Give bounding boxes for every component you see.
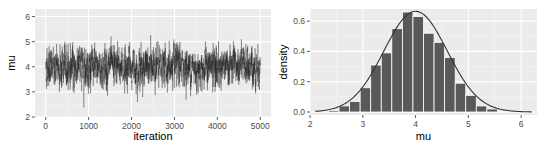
histogram-y-axis-title: density [277,44,289,79]
trace-y-tick-label: 6 [25,12,30,22]
trace-y-tick-label: 2 [25,112,30,122]
histogram-bar [360,88,371,112]
trace-x-tick-label: 0 [43,121,48,131]
trace-x-tick-label: 4000 [208,121,227,131]
histogram-bar [445,57,456,112]
histogram-bar [402,12,413,112]
histogram-bar [455,83,466,112]
histogram-x-tick-label: 3 [360,119,365,129]
histogram-bar [476,106,487,112]
trace-plot-y-axis-title: mu [5,55,17,70]
histogram-bar [434,42,445,112]
histogram-bar [487,109,498,112]
histogram-bar [328,110,339,112]
histogram-bar [424,33,435,112]
histogram-bar [466,95,477,112]
trace-plot: 23456010002000300040005000 iteration mu [5,9,271,142]
histogram-y-tick-label: 0.4 [293,46,305,56]
histogram-bar [381,53,392,112]
figure: 23456010002000300040005000 iteration mu … [0,0,551,147]
histogram-y-tick-label: 0.6 [293,16,305,26]
histogram-x-axis-title: mu [416,130,431,142]
histogram-y-tick-label: 0.2 [293,77,305,87]
histogram-bar [350,101,361,112]
histogram-bar [339,106,350,112]
trace-x-tick-label: 5000 [251,121,270,131]
histogram-x-tick-label: 6 [519,119,524,129]
histogram-x-tick-label: 4 [413,119,418,129]
trace-y-tick-label: 4 [25,62,30,72]
histogram-plot: 0.00.20.40.623456 mu density [277,9,537,142]
histogram-y-tick-label: 0.0 [293,107,305,117]
histogram-x-tick-label: 5 [466,119,471,129]
trace-x-tick-label: 1000 [79,121,98,131]
histogram-x-tick-label: 2 [308,119,313,129]
trace-y-tick-label: 3 [25,87,30,97]
figure-canvas: 23456010002000300040005000 iteration mu … [0,0,551,147]
trace-plot-x-axis-title: iteration [133,130,172,142]
histogram-bar [392,29,403,112]
trace-y-tick-label: 5 [25,37,30,47]
histogram-bar [413,17,424,112]
